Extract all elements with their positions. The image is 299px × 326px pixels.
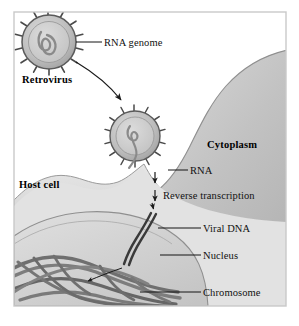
label-rna: RNA (190, 165, 213, 176)
label-cytoplasm: Cytoplasm (207, 139, 257, 150)
label-viral-dna: Viral DNA (203, 223, 251, 234)
label-retrovirus: Retrovirus (22, 74, 72, 85)
label-host-cell: Host cell (19, 179, 60, 190)
label-chromosome: Chromosome (203, 287, 261, 298)
label-nucleus: Nucleus (203, 250, 238, 261)
diagram-canvas: RNA genome Retrovirus Cytoplasm Host cel… (0, 0, 299, 326)
retrovirus-infection-figure: RNA genome Retrovirus Cytoplasm Host cel… (0, 0, 299, 326)
label-rna-genome: RNA genome (104, 37, 163, 48)
label-reverse-transcription: Reverse transcription (163, 190, 255, 201)
